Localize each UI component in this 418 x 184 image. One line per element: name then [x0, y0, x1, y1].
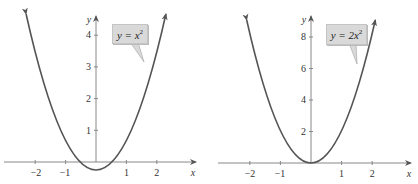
x-tick-label: 2: [154, 167, 159, 178]
y-axis-label: y: [301, 14, 307, 25]
callout-prefix: y =: [117, 28, 135, 40]
y-axis-label: y: [86, 14, 92, 25]
x-tick-label: 1: [124, 167, 129, 178]
callout-pointer: [130, 42, 144, 62]
y-tick-label: 2: [86, 93, 91, 104]
chart-y-equals-x-squared: −2 −1 1 2 x 1 2 3 4 y: [4, 14, 196, 178]
x-tick-label: −1: [60, 167, 71, 178]
equation-callout-left: y = x2: [112, 24, 148, 44]
callout-prefix: y = 2: [331, 29, 354, 41]
y-tick-label: 6: [301, 63, 306, 74]
x-tick-label: −1: [275, 168, 286, 179]
x-tick-label: 1: [339, 168, 344, 179]
equation-callout-right: y = 2x2: [326, 24, 367, 45]
callout-exponent: 2: [359, 28, 363, 36]
x-axis-label: x: [190, 167, 196, 178]
x-tick-label: 2: [370, 168, 375, 179]
y-tick-label: 4: [301, 94, 306, 105]
y-tick-label: 4: [86, 29, 91, 40]
y-tick-label: 3: [86, 61, 91, 72]
y-tick-label: 2: [301, 126, 306, 137]
x-tick-label: −2: [31, 167, 42, 178]
chart-y-equals-2x-squared: −2 −1 1 2 x 2 4 6 8 y: [218, 14, 412, 179]
callout-exponent: 2: [140, 28, 144, 36]
y-tick-label: 1: [86, 125, 91, 136]
x-tick-label: −2: [245, 168, 256, 179]
callout-pointer: [349, 43, 357, 64]
x-axis-label: x: [406, 168, 412, 179]
y-tick-label: 8: [301, 31, 306, 42]
